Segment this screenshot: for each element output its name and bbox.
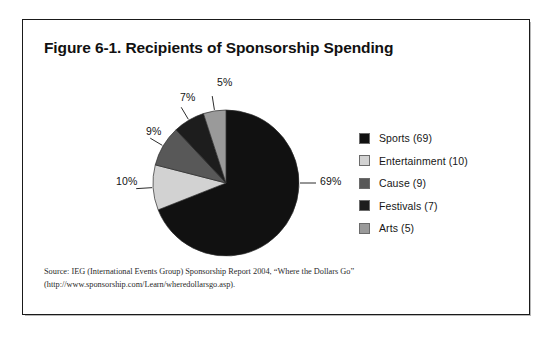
legend-item: Cause (9) bbox=[359, 172, 509, 195]
figure-frame: Figure 6-1. Recipients of Sponsorship Sp… bbox=[22, 19, 530, 315]
legend-swatch-festivals bbox=[359, 200, 370, 211]
leader-line-arts bbox=[212, 96, 214, 110]
source-note: Source: IEG (International Events Group)… bbox=[44, 265, 492, 291]
legend-item-label: Festivals (7) bbox=[379, 200, 437, 212]
legend-item: Arts (5) bbox=[359, 217, 509, 240]
legend-item-label: Sports (69) bbox=[379, 132, 432, 144]
legend-item: Entertainment (10) bbox=[359, 150, 509, 173]
legend-item-label: Entertainment (10) bbox=[379, 155, 468, 167]
legend-swatch-entertainment bbox=[359, 155, 370, 166]
pie-label-cause: 9% bbox=[146, 125, 162, 137]
leader-line-festivals bbox=[181, 107, 188, 119]
legend-item-label: Arts (5) bbox=[379, 222, 414, 234]
legend: Sports (69)Entertainment (10)Cause (9)Fe… bbox=[359, 127, 509, 240]
legend-item: Festivals (7) bbox=[359, 195, 509, 218]
pie-label-festivals: 7% bbox=[180, 91, 196, 103]
legend-item: Sports (69) bbox=[359, 127, 509, 150]
pie-slice-group bbox=[153, 110, 299, 256]
leader-line-entertainment bbox=[136, 188, 152, 189]
leader-line-cause bbox=[150, 138, 162, 145]
pie-label-entertainment: 10% bbox=[116, 175, 138, 187]
pie-label-arts: 5% bbox=[217, 76, 233, 88]
legend-swatch-cause bbox=[359, 178, 370, 189]
pie-label-sports: 69% bbox=[320, 175, 342, 187]
legend-swatch-arts bbox=[359, 223, 370, 234]
legend-swatch-sports bbox=[359, 133, 370, 144]
legend-item-label: Cause (9) bbox=[379, 177, 426, 189]
